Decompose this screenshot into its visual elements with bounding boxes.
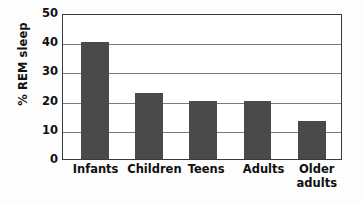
y-tick-label: 50 <box>36 8 58 20</box>
x-axis-tick-labels: InfantsChildrenTeensAdultsOlder adults <box>62 163 342 203</box>
bar <box>81 42 109 159</box>
bar <box>135 93 163 159</box>
y-tick-label: 30 <box>36 66 58 78</box>
x-tick-label: Older adults <box>284 163 350 190</box>
y-tick-label: 0 <box>36 154 58 166</box>
x-tick-label: Teens <box>173 163 239 177</box>
y-tick-label: 20 <box>36 96 58 108</box>
y-tick-label: 10 <box>36 125 58 137</box>
bar <box>298 121 326 159</box>
rem-sleep-bar-chart: % REM sleep 01020304050 InfantsChildrenT… <box>0 0 362 203</box>
plot-area <box>62 14 342 160</box>
y-axis-tick-labels: 01020304050 <box>32 0 58 203</box>
bar <box>244 101 272 159</box>
bar <box>189 101 217 159</box>
x-tick-label: Infants <box>63 163 129 177</box>
bars-layer <box>63 15 341 159</box>
y-tick-label: 40 <box>36 37 58 49</box>
